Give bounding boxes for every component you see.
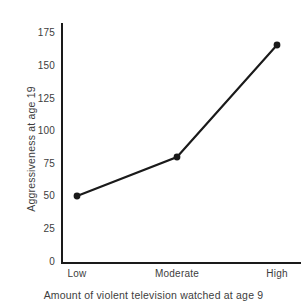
plot-area	[0, 0, 307, 308]
x-axis-title: Amount of violent television watched at …	[0, 289, 307, 301]
y-axis-title: Aggressiveness at age 19	[25, 54, 37, 244]
data-line	[77, 45, 277, 196]
data-point-low	[74, 193, 81, 200]
data-point-high	[274, 42, 281, 49]
chart-figure: 175 150 125 100 75 50 25 0 Low Moderate …	[0, 0, 307, 308]
data-point-moderate	[174, 154, 181, 161]
